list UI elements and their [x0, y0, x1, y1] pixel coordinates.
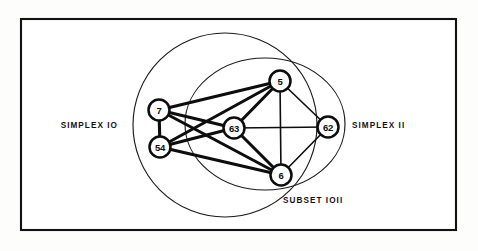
graph-node-5[interactable]: 5: [270, 71, 291, 92]
node-label-7: 7: [157, 105, 162, 116]
graph-node-63[interactable]: 63: [224, 118, 245, 139]
node-label-63: 63: [229, 123, 239, 134]
region-label-subset-1011: SUBSET IOII: [283, 196, 343, 205]
region-label-simplex-11: SIMPLEX II: [352, 121, 405, 130]
node-label-54: 54: [155, 142, 166, 153]
node-label-6: 6: [279, 170, 284, 181]
graph-node-6[interactable]: 6: [271, 165, 292, 186]
graph-node-7[interactable]: 7: [149, 100, 170, 121]
figure-container: 754635662 SIMPLEX IO SIMPLEX II SUBSET I…: [0, 0, 478, 251]
graph-node-62[interactable]: 62: [318, 117, 339, 138]
simplex-diagram: 754635662 SIMPLEX IO SIMPLEX II SUBSET I…: [0, 0, 478, 251]
region-label-simplex-10: SIMPLEX IO: [61, 121, 118, 130]
edge-n5-n6: [280, 81, 281, 175]
graph-node-54[interactable]: 54: [150, 137, 171, 158]
node-label-62: 62: [323, 122, 333, 133]
